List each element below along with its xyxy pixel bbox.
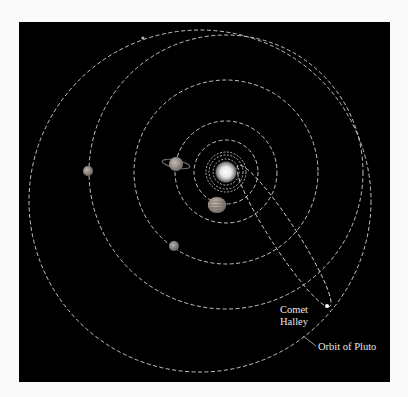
pluto-icon [141,36,144,39]
jupiter-icon [208,197,226,213]
comet-label-line2: Halley [280,316,309,327]
comet-label-line1: Comet [280,304,308,315]
pluto-orbit-label: Orbit of Pluto [318,341,376,352]
solar-system-diagram: Comet Halley Orbit of Pluto [0,0,408,397]
neptune-icon [169,241,179,251]
sun-icon [214,160,238,184]
uranus-icon [83,166,93,176]
comet-halley-icon [325,304,329,308]
space-background [19,22,390,382]
